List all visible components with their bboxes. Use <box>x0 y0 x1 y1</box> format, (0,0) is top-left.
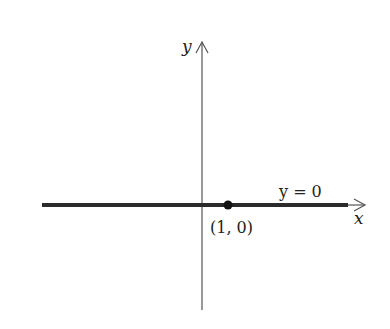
point-1-0 <box>224 201 233 210</box>
line-label: y = 0 <box>278 182 322 201</box>
y-axis-label: y <box>181 36 192 56</box>
point-label: (1, 0) <box>210 218 253 237</box>
x-axis-label: x <box>354 208 364 228</box>
coordinate-plane: y x y = 0 (1, 0) <box>0 0 390 329</box>
